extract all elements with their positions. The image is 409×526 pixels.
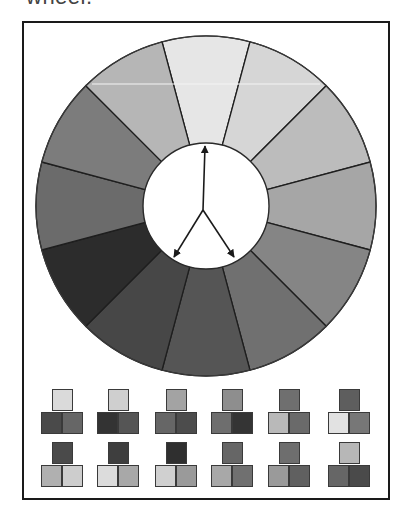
swatch-square-left xyxy=(155,465,176,487)
swatch-square-top xyxy=(108,442,129,464)
color-scheme-swatch xyxy=(268,442,312,489)
swatch-square-left xyxy=(41,412,62,434)
swatch-square-right xyxy=(232,465,253,487)
wheel-center-hole xyxy=(143,143,269,269)
swatch-square-right xyxy=(349,412,370,434)
swatch-square-left xyxy=(211,412,232,434)
color-scheme-swatch xyxy=(328,442,372,489)
color-scheme-swatch xyxy=(211,442,255,489)
swatch-square-top xyxy=(52,389,73,411)
swatch-square-left xyxy=(41,465,62,487)
swatch-square-right xyxy=(176,465,197,487)
swatch-square-top xyxy=(279,442,300,464)
color-scheme-swatch xyxy=(97,389,141,436)
swatch-square-left xyxy=(328,412,349,434)
swatch-square-right xyxy=(289,465,310,487)
swatch-square-top xyxy=(166,442,187,464)
swatch-square-right xyxy=(118,412,139,434)
swatch-square-right xyxy=(176,412,197,434)
swatch-square-right xyxy=(118,465,139,487)
swatch-square-top xyxy=(339,442,360,464)
swatch-square-top xyxy=(339,389,360,411)
swatch-square-top xyxy=(52,442,73,464)
swatch-square-left xyxy=(211,465,232,487)
swatch-square-left xyxy=(328,465,349,487)
swatch-square-top xyxy=(222,389,243,411)
color-scheme-swatch xyxy=(328,389,372,436)
swatch-square-top xyxy=(222,442,243,464)
swatch-square-left xyxy=(97,465,118,487)
color-scheme-swatch xyxy=(41,389,85,436)
color-scheme-swatch xyxy=(155,442,199,489)
color-scheme-swatch xyxy=(155,389,199,436)
swatch-square-left xyxy=(268,412,289,434)
swatch-square-right xyxy=(289,412,310,434)
swatch-square-left xyxy=(97,412,118,434)
swatch-square-right xyxy=(232,412,253,434)
swatch-square-right xyxy=(349,465,370,487)
swatch-square-left xyxy=(268,465,289,487)
swatch-square-top xyxy=(108,389,129,411)
swatch-square-right xyxy=(62,412,83,434)
color-scheme-swatch xyxy=(97,442,141,489)
swatch-square-left xyxy=(155,412,176,434)
swatch-square-top xyxy=(279,389,300,411)
swatch-square-top xyxy=(166,389,187,411)
color-scheme-swatch xyxy=(211,389,255,436)
swatch-square-right xyxy=(62,465,83,487)
color-scheme-swatch xyxy=(268,389,312,436)
color-scheme-swatch xyxy=(41,442,85,489)
